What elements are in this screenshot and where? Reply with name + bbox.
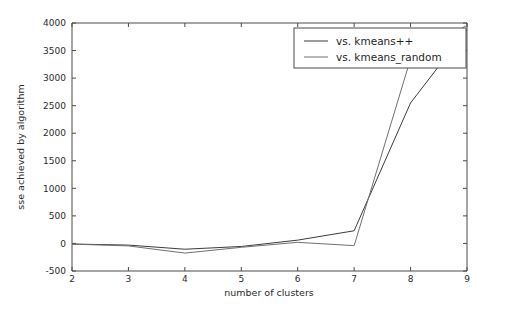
y-tick-label: 2000 bbox=[43, 128, 66, 138]
y-tick-label: -500 bbox=[46, 266, 67, 276]
x-tick-label: 5 bbox=[238, 274, 244, 284]
y-tick-label: 3500 bbox=[43, 46, 66, 56]
chart-figure: 23456789 -500050010001500200025003000350… bbox=[0, 0, 506, 312]
x-tick-label: 7 bbox=[351, 274, 357, 284]
y-tick-label: 1000 bbox=[43, 184, 66, 194]
y-tick-label: 500 bbox=[49, 211, 66, 221]
y-tick-label: 2500 bbox=[43, 101, 66, 111]
x-tick-label: 2 bbox=[69, 274, 75, 284]
legend-label: vs. kmeans++ bbox=[336, 35, 413, 47]
x-axis-title: number of clusters bbox=[224, 287, 314, 298]
line-chart: 23456789 -500050010001500200025003000350… bbox=[0, 0, 506, 312]
x-tick-label: 4 bbox=[182, 274, 188, 284]
y-axis-title: sse achieved by algorithm bbox=[15, 84, 26, 209]
x-tick-label: 8 bbox=[408, 274, 414, 284]
x-tick-label: 9 bbox=[464, 274, 470, 284]
x-tick-label: 6 bbox=[295, 274, 301, 284]
y-tick-label: 4000 bbox=[43, 18, 66, 28]
legend-label: vs. kmeans_random bbox=[336, 51, 442, 64]
y-tick-label: 1500 bbox=[43, 156, 66, 166]
x-tick-label: 3 bbox=[126, 274, 132, 284]
y-tick-label: 3000 bbox=[43, 73, 66, 83]
y-tick-label: 0 bbox=[60, 239, 66, 249]
chart-legend[interactable]: vs. kmeans++vs. kmeans_random bbox=[294, 28, 466, 68]
